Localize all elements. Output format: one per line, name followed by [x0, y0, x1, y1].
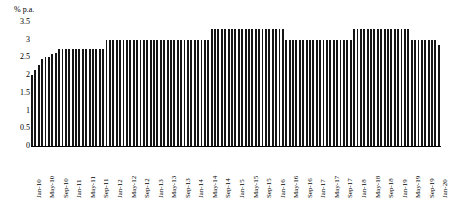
- bar: [109, 40, 111, 146]
- bar: [326, 40, 328, 146]
- x-axis-tick-label: Jan-19: [402, 179, 409, 198]
- bar: [360, 29, 362, 146]
- bar: [116, 40, 118, 146]
- bar: [123, 40, 125, 146]
- bar: [387, 29, 389, 146]
- x-axis-tick-label: May-17: [334, 176, 341, 198]
- bar: [316, 40, 318, 146]
- bar: [282, 29, 284, 146]
- x-axis-tick-label: Sep-13: [185, 178, 192, 198]
- bar: [397, 29, 399, 146]
- bar: [89, 49, 91, 146]
- bar: [384, 29, 386, 146]
- bar: [265, 29, 267, 146]
- x-axis-tick-label: May-16: [293, 176, 300, 198]
- y-axis-tick-label: 1: [4, 107, 30, 115]
- bar: [58, 49, 60, 146]
- bar: [424, 40, 426, 146]
- bar: [55, 53, 57, 146]
- bar: [336, 40, 338, 146]
- x-axis-tick-label: May-15: [253, 176, 260, 198]
- bar: [112, 40, 114, 146]
- plot-area: [31, 22, 441, 146]
- bar: [170, 40, 172, 146]
- x-axis-tick-label: Sep-15: [266, 178, 273, 198]
- bar: [343, 40, 345, 146]
- bar: [312, 40, 314, 146]
- bar: [414, 40, 416, 146]
- x-axis-tick-label: Jan-14: [198, 179, 205, 198]
- bar: [390, 29, 392, 146]
- x-axis: Jan-10May-10Sep-10Jan-11May-11Sep-11Jan-…: [31, 148, 441, 201]
- bar: [211, 29, 213, 146]
- bar: [82, 49, 84, 146]
- bars-container: [31, 22, 441, 146]
- bar: [136, 40, 138, 146]
- bar: [292, 40, 294, 146]
- bar: [272, 29, 274, 146]
- x-axis-line: [31, 146, 441, 147]
- bar: [99, 49, 101, 146]
- bar: [319, 40, 321, 146]
- bar: [346, 40, 348, 146]
- bar: [238, 29, 240, 146]
- y-axis-tick-label: 0.5: [4, 124, 30, 132]
- bar: [95, 49, 97, 146]
- bar: [92, 49, 94, 146]
- bar: [190, 40, 192, 146]
- bar: [133, 40, 135, 146]
- bar: [167, 40, 169, 146]
- bar: [45, 57, 47, 146]
- bar: [163, 40, 165, 146]
- bar: [160, 40, 162, 146]
- bar: [31, 75, 33, 146]
- x-axis-tick-label: Jan-15: [239, 179, 246, 198]
- x-axis-tick-label: Sep-10: [63, 178, 70, 198]
- x-axis-tick-label: Jan-16: [280, 179, 287, 198]
- bar: [119, 40, 121, 146]
- y-axis-tick-label: 3.5: [4, 18, 30, 26]
- bar: [407, 29, 409, 146]
- bar: [224, 29, 226, 146]
- x-axis-tick-label: Jan-18: [361, 179, 368, 198]
- bar: [177, 40, 179, 146]
- bar: [428, 40, 430, 146]
- bar: [404, 29, 406, 146]
- x-axis-tick-label: Sep-19: [429, 178, 436, 198]
- bar: [78, 49, 80, 146]
- bar: [289, 40, 291, 146]
- bar: [353, 29, 355, 146]
- y-axis: 3.532.521.510.50: [0, 0, 30, 201]
- bar: [62, 49, 64, 146]
- x-axis-tick-label: Sep-17: [347, 178, 354, 198]
- x-axis-tick-label: May-12: [131, 176, 138, 198]
- x-axis-tick-label: Sep-16: [307, 178, 314, 198]
- bar: [214, 29, 216, 146]
- y-axis-tick-label: 0: [4, 142, 30, 150]
- y-axis-tick-label: 2: [4, 71, 30, 79]
- bar: [370, 29, 372, 146]
- bar: [156, 40, 158, 146]
- bar: [431, 40, 433, 146]
- bar: [268, 29, 270, 146]
- bar: [394, 29, 396, 146]
- bar: [401, 29, 403, 146]
- bar: [418, 40, 420, 146]
- bar: [323, 40, 325, 146]
- bar: [434, 40, 436, 146]
- bar: [221, 29, 223, 146]
- bar: [380, 29, 382, 146]
- x-axis-tick-label: Jan-12: [117, 179, 124, 198]
- bar: [75, 49, 77, 146]
- bar: [279, 29, 281, 146]
- bar: [65, 49, 67, 146]
- bar: [228, 29, 230, 146]
- bar: [421, 40, 423, 146]
- bar: [309, 40, 311, 146]
- bar: [129, 40, 131, 146]
- bar: [48, 57, 50, 146]
- bar: [245, 29, 247, 146]
- bar: [34, 70, 36, 146]
- x-axis-tick-label: May-18: [375, 176, 382, 198]
